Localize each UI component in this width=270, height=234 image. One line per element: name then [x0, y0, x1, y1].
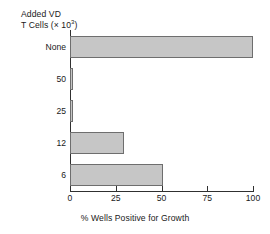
y-axis-title: Added VD T Cells (× 103)	[21, 9, 78, 31]
plot-area	[70, 31, 253, 191]
y-axis-tick-label: 50	[8, 68, 66, 90]
y-axis-tick-label: 25	[8, 100, 66, 122]
bar-row	[70, 100, 73, 122]
bar	[70, 164, 163, 186]
y-axis-tick-label: None	[8, 36, 66, 58]
y-axis-title-line2-suffix: )	[75, 20, 78, 30]
x-axis-tick-label: 25	[101, 193, 131, 203]
bar-row	[70, 68, 73, 90]
bar-row	[70, 36, 253, 58]
x-axis-tick	[70, 186, 71, 191]
y-axis-tick-label: 6	[8, 164, 66, 186]
x-axis-label: % Wells Positive for Growth	[0, 213, 270, 223]
bar	[70, 132, 124, 154]
bar-row	[70, 132, 124, 154]
x-axis-tick-label: 100	[238, 193, 268, 203]
bar	[70, 100, 73, 122]
y-axis-title-line1: Added VD	[21, 9, 61, 19]
x-axis-tick-label: 50	[147, 193, 177, 203]
bar-row	[70, 164, 163, 186]
y-axis-title-line2-prefix: T Cells (× 10	[21, 20, 71, 30]
y-axis-tick-label: 12	[8, 132, 66, 154]
x-axis-line	[70, 191, 254, 192]
x-axis-tick	[116, 186, 117, 191]
bar	[70, 68, 73, 90]
x-axis-tick-label: 0	[55, 193, 85, 203]
bar-chart-figure: Added VD T Cells (× 103) None5025126 025…	[0, 0, 270, 234]
x-axis-tick	[253, 186, 254, 191]
x-axis-tick	[207, 186, 208, 191]
x-axis-tick-label: 75	[192, 193, 222, 203]
bar	[70, 36, 253, 58]
x-axis-tick	[162, 186, 163, 191]
